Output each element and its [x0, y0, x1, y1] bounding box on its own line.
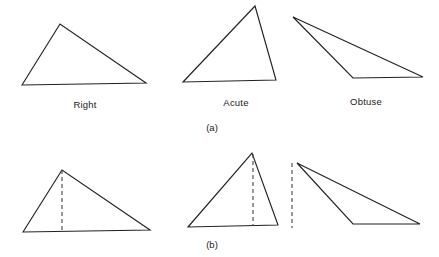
label-right: Right — [73, 99, 96, 111]
figure-canvas — [0, 0, 439, 257]
row-a-group — [22, 6, 423, 85]
label-acute: Acute — [223, 97, 248, 109]
triangle-obtuse-with-external-altitude — [297, 163, 420, 224]
triangle-acute — [183, 6, 276, 82]
label-obtuse: Obtuse — [350, 96, 382, 108]
triangle-acute-with-altitude — [188, 153, 278, 227]
triangle-figure: Right Acute Obtuse (a) (b) — [0, 0, 439, 257]
triangle-right-with-altitude — [23, 170, 150, 232]
triangle-obtuse — [293, 17, 423, 78]
part-label-a: (a) — [206, 122, 218, 134]
triangle-right — [22, 24, 146, 85]
part-label-b: (b) — [206, 239, 218, 251]
row-b-group — [23, 153, 420, 232]
